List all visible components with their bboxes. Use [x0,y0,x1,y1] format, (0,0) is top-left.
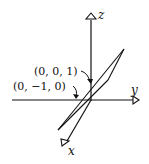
point-label-001: (0, 0, 1) [34,65,78,78]
x-axis-label: x [68,144,75,158]
z-axis-arrow-icon [86,13,96,19]
z-axis [86,13,96,101]
z-axis-label: z [97,8,105,22]
point-label-0m10: (0, −1, 0) [13,80,66,93]
y-axis-label: y [130,83,138,97]
y-axis-arrow-icon [133,96,139,104]
plane-diagram: z y x (0, 0, 1) (0, −1, 0) [0,0,149,164]
